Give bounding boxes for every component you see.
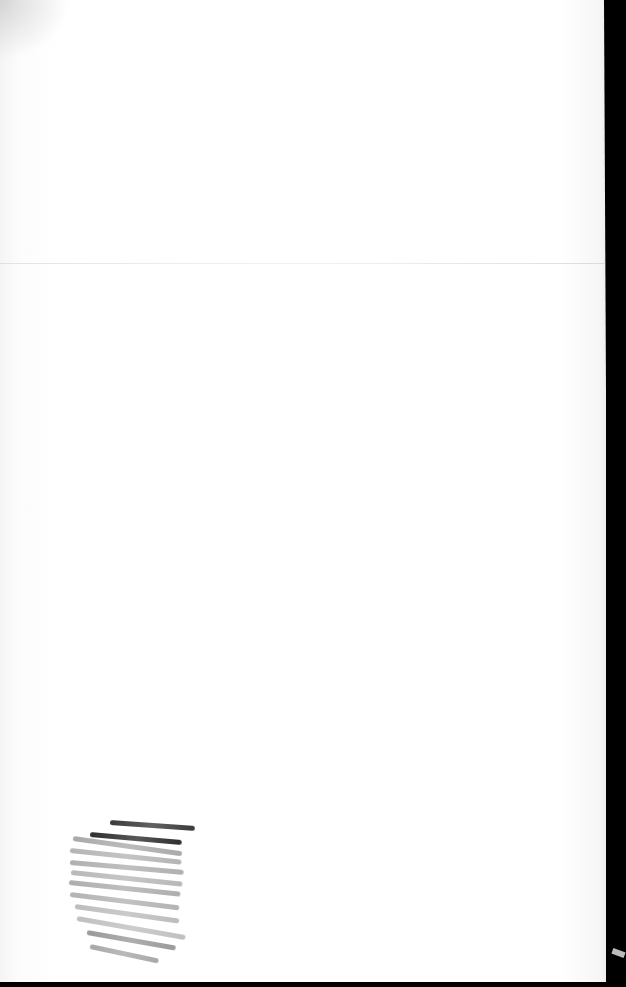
- paper-sheet: [0, 0, 606, 982]
- fold-line: [0, 263, 606, 264]
- edge-tab-mark: [611, 948, 625, 958]
- pencil-stroke: [110, 820, 195, 831]
- pencil-stroke: [89, 944, 159, 963]
- pencil-hatching: [55, 812, 200, 967]
- corner-smudge: [0, 0, 70, 60]
